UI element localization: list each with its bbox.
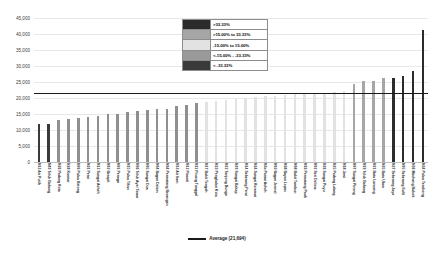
x-axis-labels: N13 Air PutihN40 Teluk BahangN26 Padang …: [34, 163, 428, 241]
bar-slot: [329, 18, 339, 162]
bar: [235, 99, 238, 162]
y-tick-label: 10,000: [16, 128, 30, 133]
bar-slot: [310, 18, 320, 162]
x-label-slot: N12 Sungai Acheh: [93, 163, 103, 241]
bar: [146, 110, 149, 162]
bar-slot: [162, 18, 172, 162]
bar: [303, 94, 306, 162]
bar: [343, 91, 346, 162]
bar: [136, 111, 139, 162]
x-label-slot: N38 Bayan Lepas: [280, 163, 290, 241]
x-tick-label: N36 Machang Bubok: [411, 163, 415, 197]
legend-label: >15.00% to 33.33%: [211, 32, 250, 37]
y-tick-label: 45,000: [16, 16, 30, 21]
x-label-slot: N18 Jawi: [339, 163, 349, 241]
x-tick-label: N24 Sungai Keramat: [253, 163, 257, 197]
x-tick-label: N20 Sungai Bakap: [234, 163, 238, 194]
x-label-slot: N37 Seberang Jaya: [388, 163, 398, 241]
bar-slot: [369, 18, 379, 162]
legend-swatch: [183, 61, 211, 70]
bar-slot: [73, 18, 83, 162]
legend-label: >33.33%: [211, 22, 230, 27]
x-label-slot: N02 Seri Delima: [310, 163, 320, 241]
x-tick-label: N04 Permatang Berangan: [165, 163, 169, 206]
x-tick-label: N12 Sungai Acheh: [96, 163, 100, 194]
legend-row: < -33.33%: [183, 61, 267, 70]
bar: [116, 114, 119, 162]
x-label-slot: N21 Batu Lancang: [369, 163, 379, 241]
x-label-slot: N26 Padang Kota: [54, 163, 64, 241]
legend-row: >33.33%: [183, 20, 267, 30]
bar-slot: [270, 18, 280, 162]
bar-slot: [132, 18, 142, 162]
x-tick-label: N28 Komtar: [66, 163, 70, 183]
average-legend-label: Average (21,694): [209, 236, 245, 241]
x-tick-label: N19 Telok Bahang: [362, 163, 366, 193]
bar-slot: [83, 18, 93, 162]
x-tick-label: N25 Padang Lalang: [332, 163, 336, 195]
x-label-slot: N19 Telok Bahang: [359, 163, 369, 241]
y-tick-label: 25,000: [16, 80, 30, 85]
bar-slot: [123, 18, 133, 162]
bar: [323, 93, 326, 162]
x-tick-label: N18 Jawi: [342, 163, 346, 178]
bar-slot: [113, 18, 123, 162]
bar-slot: [339, 18, 349, 162]
bar: [126, 112, 129, 162]
y-tick-label: 20,000: [16, 96, 30, 101]
bar: [333, 92, 336, 162]
color-legend: >33.33%>15.00% to 33.33%-15.00% to 15.00…: [182, 19, 268, 71]
bar-slot: [44, 18, 54, 162]
x-label-slot: N02 Berapit: [103, 163, 113, 241]
x-tick-label: N34 Pulau Terubong: [421, 163, 425, 197]
bar: [215, 101, 218, 162]
bar: [195, 103, 198, 162]
x-label-slot: N28 Komtar: [64, 163, 74, 241]
bar: [77, 118, 80, 162]
bar-chart-figure: 05,00010,00015,00020,00025,00030,00035,0…: [0, 0, 434, 253]
bar: [185, 105, 188, 162]
x-tick-label: N17 Bukit Tengah: [204, 163, 208, 192]
x-tick-label: N07 Sungai Pinang: [352, 163, 356, 195]
x-tick-label: N3a Pantai Acheh: [263, 163, 267, 192]
bar: [47, 124, 50, 162]
bar: [175, 106, 178, 162]
x-label-slot: N04 Permatang Berangan: [162, 163, 172, 241]
x-tick-label: N22 Tanjong Bunga: [224, 163, 228, 196]
bar: [284, 95, 287, 162]
bar: [107, 114, 110, 162]
bar: [353, 84, 356, 162]
bar-slot: [152, 18, 162, 162]
x-tick-label: N14 Seberang Perai: [244, 163, 248, 196]
x-label-slot: N01 Penaga: [113, 163, 123, 241]
bar: [294, 94, 297, 162]
x-tick-label: N03 Bagan Jermal: [273, 163, 277, 193]
x-tick-label: N08 Bukit Tambun: [293, 163, 297, 193]
x-label-slot: N12 Pinanti: [182, 163, 192, 241]
bar: [264, 96, 267, 162]
bar-slot: [300, 18, 310, 162]
legend-label: < -33.33%: [211, 63, 232, 68]
bar-slot: [172, 18, 182, 162]
bar: [205, 102, 208, 162]
x-tick-label: N05 Seberang Sulit: [401, 163, 405, 195]
bar: [254, 97, 257, 162]
bar-slot: [349, 18, 359, 162]
bar: [87, 117, 90, 162]
x-tick-label: N13 Air Putih: [37, 163, 41, 185]
x-label-slot: N36 Machang Bubok: [408, 163, 418, 241]
y-tick-label: 0: [27, 160, 30, 165]
x-label-slot: N20 Sungai Bakap: [231, 163, 241, 241]
bar: [57, 120, 60, 162]
bar: [382, 78, 385, 162]
y-tick-label: 30,000: [16, 64, 30, 69]
x-label-slot: N03 Bagan Jermal: [270, 163, 280, 241]
x-label-slot: N16 Permatang Pauh: [300, 163, 310, 241]
x-tick-label: N02 Seri Delima: [313, 163, 317, 189]
x-label-slot: N25 Padang Lalang: [329, 163, 339, 241]
x-tick-label: N37 Seberang Jaya: [391, 163, 395, 195]
x-label-slot: N26 Sungai Puyu: [319, 163, 329, 241]
x-tick-label: N09 Pulau Betong: [76, 163, 80, 193]
bar: [97, 116, 100, 162]
x-tick-label: N02 Berapit: [106, 163, 110, 182]
